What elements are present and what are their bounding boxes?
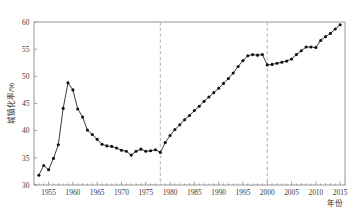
data-point [256,54,259,57]
data-point [300,49,303,52]
y-tick-label: 40 [22,126,30,135]
x-tick-label: 1985 [187,188,202,197]
data-point [42,164,45,167]
data-point [275,62,278,65]
data-point [76,107,79,110]
data-point [149,149,152,152]
data-point [105,144,108,147]
x-tick-label: 2005 [284,188,299,197]
data-point [232,72,235,75]
y-tick-label: 60 [22,18,30,27]
data-point [47,168,50,171]
data-point [130,154,133,157]
x-tick-label: 2000 [260,188,275,197]
data-point [198,105,201,108]
data-point [52,157,55,160]
data-point [203,100,206,103]
data-point [207,95,210,98]
data-point [144,150,147,153]
urbanization-rate-line-chart: 3035404550556019551960196519701975198019… [0,0,362,220]
y-tick-label: 30 [22,181,30,190]
data-point [329,32,332,35]
data-point [222,82,225,85]
data-point [100,143,103,146]
y-tick-label: 55 [22,45,30,54]
data-point [71,88,74,91]
y-tick-label: 35 [22,154,30,163]
x-tick-label: 1960 [65,188,80,197]
data-point [309,45,312,48]
x-tick-label: 1995 [236,188,251,197]
data-point [159,151,162,154]
x-tick-label: 2010 [308,188,323,197]
data-point [66,81,69,84]
x-tick-label: 1980 [163,188,178,197]
data-point [212,91,215,94]
data-point [241,59,244,62]
data-point [62,107,65,110]
data-point [169,134,172,137]
data-point [227,77,230,80]
x-tick-label: 2015 [333,188,348,197]
data-point [266,63,269,66]
data-point [285,60,288,63]
x-tick-label: 1990 [211,188,226,197]
x-axis-title: 年份 [327,198,343,208]
data-point [261,53,264,56]
data-point [86,129,89,132]
data-point [339,23,342,26]
data-point [280,61,283,64]
data-point [246,54,249,57]
data-point [319,39,322,42]
plot-frame [34,22,345,185]
data-point [290,57,293,60]
data-point [115,147,118,150]
data-point [324,35,327,38]
data-point [37,174,40,177]
data-point [188,114,191,117]
y-axis-title: 城镇化率/% [6,83,16,124]
data-point [178,123,181,126]
data-point [125,150,128,153]
data-point [217,87,220,90]
data-point [135,150,138,153]
x-tick-label: 1965 [90,188,105,197]
data-point [96,138,99,141]
data-point [57,143,60,146]
x-tick-label: 1970 [114,188,129,197]
data-point [91,133,94,136]
data-point [173,128,176,131]
data-point [295,53,298,56]
y-tick-label: 45 [22,99,30,108]
data-point [193,109,196,112]
data-point [120,149,123,152]
series-line-urbanization-rate [39,25,340,176]
x-tick-label: 1955 [41,188,56,197]
x-tick-label: 1975 [138,188,153,197]
data-point [154,148,157,151]
data-point [183,118,186,121]
data-point [110,145,113,148]
data-point [251,53,254,56]
data-point [164,141,167,144]
data-point [81,116,84,119]
chart-figure: 3035404550556019551960196519701975198019… [0,0,362,220]
data-point [305,45,308,48]
data-point [139,148,142,151]
data-point [334,28,337,31]
data-point [271,63,274,66]
y-tick-label: 50 [22,72,30,81]
data-point [237,65,240,68]
data-point [314,46,317,49]
